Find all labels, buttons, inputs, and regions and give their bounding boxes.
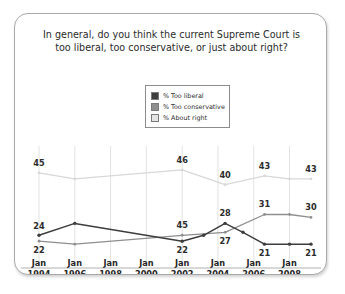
legend-label-too-conservative: % Too conservative <box>163 103 225 111</box>
legend-item-about-right: % About right <box>151 112 224 123</box>
x-tick-year: 1996 <box>55 269 95 276</box>
data-point <box>73 243 76 246</box>
x-axis-tick-label: Jan2006 <box>234 258 274 275</box>
data-label: 45 <box>176 220 188 230</box>
data-point <box>224 183 227 186</box>
x-tick-month: Jan <box>234 258 274 269</box>
data-point <box>73 222 76 225</box>
data-label: 43 <box>305 164 317 174</box>
data-point <box>263 213 266 216</box>
x-axis-tick-label: Jan1994 <box>19 258 59 275</box>
data-label: 40 <box>219 170 231 180</box>
x-axis-tick-label: Jan2002 <box>162 258 202 275</box>
x-axis: Jan1994Jan1996Jan1998Jan2000Jan2002Jan20… <box>15 256 327 275</box>
legend-swatch-icon-too-conservative <box>151 103 159 111</box>
x-axis-tick-label: Jan2004 <box>198 258 238 275</box>
page-title: In general, do you think the current Sup… <box>31 28 312 54</box>
legend-item-too-liberal: % Too liberal <box>151 90 224 101</box>
series-line <box>39 170 311 185</box>
data-point <box>288 242 291 245</box>
data-label: 28 <box>219 208 231 218</box>
x-axis-tick-label: Jan2008 <box>270 258 310 275</box>
x-axis-tick-label: Jan2000 <box>126 258 166 275</box>
data-point <box>38 171 41 174</box>
plot-area: 242228212122452731304546404343 <box>15 144 327 274</box>
x-tick-month: Jan <box>19 258 59 269</box>
data-point <box>310 177 313 180</box>
x-tick-month: Jan <box>126 258 166 269</box>
data-label: 31 <box>259 199 271 209</box>
legend-label-too-liberal: % Too liberal <box>163 92 204 100</box>
data-point <box>181 168 184 171</box>
x-axis-tick-label: Jan1996 <box>55 258 95 275</box>
title-line-2: too liberal, too conservative, or just a… <box>31 41 312 54</box>
data-label: 27 <box>219 236 231 246</box>
data-point <box>73 177 76 180</box>
data-point <box>37 234 40 237</box>
data-point <box>288 177 291 180</box>
data-label: 24 <box>33 221 45 231</box>
data-point <box>224 231 227 234</box>
data-point <box>263 242 266 245</box>
legend-swatch-icon-about-right <box>151 114 159 122</box>
x-tick-year: 1994 <box>19 269 59 276</box>
legend-swatch-icon-too-liberal <box>151 92 159 100</box>
data-point <box>223 222 226 225</box>
data-point <box>263 174 266 177</box>
data-point <box>288 213 291 216</box>
data-point <box>180 240 183 243</box>
data-point <box>310 216 313 219</box>
data-label: 43 <box>259 161 271 171</box>
data-label: 22 <box>33 245 44 255</box>
title-line-1: In general, do you think the current Sup… <box>31 28 312 41</box>
line-chart-svg: 242228212122452731304546404343 <box>15 144 327 274</box>
data-label: 30 <box>305 202 317 212</box>
data-point <box>202 234 205 237</box>
x-tick-year: 1998 <box>91 269 131 276</box>
x-tick-month: Jan <box>91 258 131 269</box>
x-tick-month: Jan <box>198 258 238 269</box>
x-tick-year: 2006 <box>234 269 274 276</box>
series-line <box>39 223 311 244</box>
data-label: 22 <box>176 245 187 255</box>
x-tick-year: 2002 <box>162 269 202 276</box>
data-point <box>38 240 41 243</box>
data-label: 46 <box>176 155 188 165</box>
data-point <box>309 242 312 245</box>
x-tick-year: 2000 <box>126 269 166 276</box>
legend-label-about-right: % About right <box>163 114 207 122</box>
data-label: 45 <box>33 158 45 168</box>
data-point <box>181 234 184 237</box>
x-tick-year: 2004 <box>198 269 238 276</box>
x-axis-tick-label: Jan1998 <box>91 258 131 275</box>
chart-card: In general, do you think the current Sup… <box>14 13 327 275</box>
x-tick-year: 2008 <box>270 269 310 276</box>
x-tick-month: Jan <box>270 258 310 269</box>
chart-legend: % Too liberal % Too conservative % About… <box>145 85 230 128</box>
data-point <box>241 231 244 234</box>
legend-item-too-conservative: % Too conservative <box>151 101 224 112</box>
x-tick-month: Jan <box>162 258 202 269</box>
x-tick-month: Jan <box>55 258 95 269</box>
